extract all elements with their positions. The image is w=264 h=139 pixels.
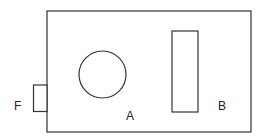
label-b: B	[218, 100, 226, 112]
circle-a	[79, 51, 126, 98]
rectangle-b	[172, 31, 198, 112]
label-f: F	[14, 100, 21, 112]
outer-frame	[47, 11, 251, 132]
label-a: A	[126, 110, 134, 122]
tab-f	[34, 85, 48, 112]
